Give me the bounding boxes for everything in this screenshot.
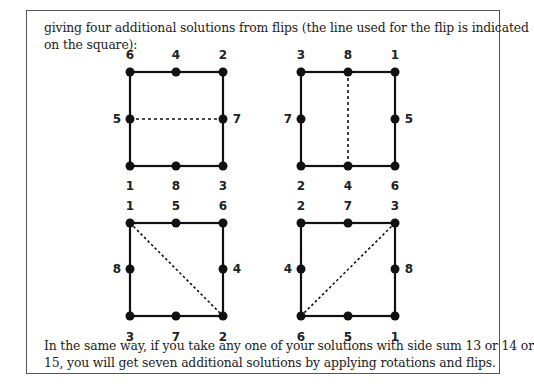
label: 8 (405, 262, 413, 276)
label: 1 (391, 48, 399, 62)
label: 1 (126, 179, 134, 193)
outro-line-2: 15, you will get seven additional soluti… (44, 354, 534, 371)
label: 6 (126, 48, 134, 62)
label: 8 (344, 48, 352, 62)
label: 2 (297, 199, 305, 213)
label: 8 (113, 262, 121, 276)
label: 5 (113, 112, 121, 126)
label: 3 (219, 179, 227, 193)
square-vertical-flip-dots (297, 68, 400, 171)
outro-paragraph: In the same way, if you take any one of … (44, 337, 534, 371)
square-antidiagonal-flip (301, 223, 395, 316)
label: 4 (344, 179, 352, 193)
label: 4 (233, 262, 241, 276)
label: 3 (297, 48, 305, 62)
square-horizontal-flip (130, 72, 223, 166)
label: 7 (284, 112, 292, 126)
label: 2 (297, 179, 305, 193)
label: 4 (172, 48, 180, 62)
outro-line-1: In the same way, if you take any one of … (44, 337, 534, 354)
label: 3 (391, 199, 399, 213)
square-vertical-flip (301, 72, 395, 166)
label: 4 (284, 262, 292, 276)
label: 5 (172, 199, 180, 213)
label: 8 (172, 179, 180, 193)
label: 7 (344, 199, 352, 213)
label: 6 (391, 179, 399, 193)
label: 5 (405, 112, 413, 126)
square-diagonal-flip (130, 223, 223, 316)
label: 1 (126, 199, 134, 213)
label: 2 (219, 48, 227, 62)
square-horizontal-flip-dots (126, 68, 228, 171)
label: 7 (233, 112, 241, 126)
label: 6 (219, 199, 227, 213)
